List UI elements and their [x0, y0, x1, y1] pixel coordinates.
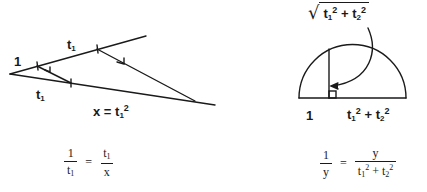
label-t1-lower: t1	[36, 88, 45, 103]
label-t1-upper: t1	[67, 38, 76, 53]
label-x-equals-t1-squared: x = t12	[93, 104, 129, 120]
fraction-lhs: 1 t1	[64, 147, 77, 178]
tick-mark	[97, 45, 98, 53]
arrowhead-icon	[331, 83, 338, 89]
upper-ray	[10, 36, 146, 74]
base-label-sum-squares: t12 + t22	[347, 107, 389, 123]
tick-mark	[37, 62, 38, 70]
equation-right: 1 y = y t12 + t22	[320, 147, 396, 179]
curved-arrow	[333, 28, 372, 86]
right-angle-marker	[329, 91, 336, 98]
fraction-rhs: y t12 + t22	[355, 147, 396, 179]
sqrt-label: √ t12 + t22	[308, 2, 369, 22]
sqrt-radicand: t12 + t22	[319, 2, 368, 22]
fraction-rhs: t1 x	[100, 147, 113, 178]
label-one: 1	[14, 55, 21, 68]
sqrt-icon: √	[308, 4, 319, 22]
fraction-lhs: 1 y	[320, 149, 332, 178]
base-label-one: 1	[306, 109, 313, 122]
parallel-arrow-icon	[45, 67, 50, 72]
long-transversal	[97, 49, 195, 101]
semicircle	[299, 45, 406, 99]
equation-left: 1 t1 = t1 x	[64, 147, 113, 178]
